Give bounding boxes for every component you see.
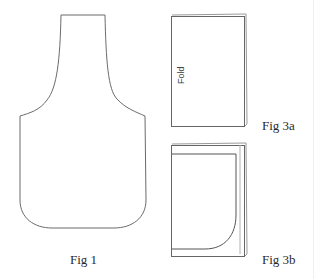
- apron-outline: [20, 15, 146, 228]
- fig1-caption: Fig 1: [70, 252, 97, 268]
- fig3b-caption: Fig 3b: [262, 252, 296, 268]
- fold-label: Fold: [176, 66, 186, 84]
- page-edge-divider: [313, 0, 314, 279]
- cut-curve: [172, 154, 236, 249]
- fig3a-caption: Fig 3a: [262, 118, 295, 134]
- fold3b-front-layer: [172, 146, 245, 257]
- diagram-canvas: Fold Fig 1 Fig 3a Fig 3b: [0, 0, 320, 279]
